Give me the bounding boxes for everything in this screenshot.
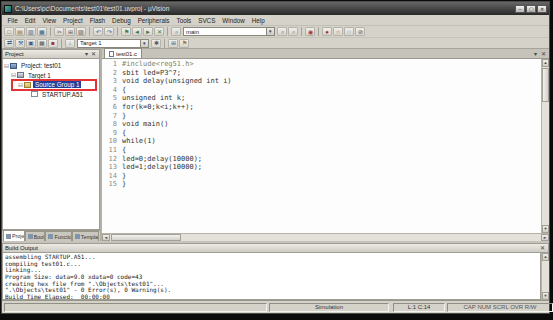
open-file-icon[interactable]: ▤ [15, 27, 25, 36]
scroll-up-icon[interactable]: ▲ [542, 253, 549, 261]
enable-breakpoint-icon[interactable]: ○ [333, 27, 343, 36]
close-tab-icon[interactable]: ✕ [540, 50, 547, 58]
tab-list-dropdown-icon[interactable]: ▾ [532, 50, 539, 58]
separator[interactable] [167, 27, 168, 36]
panel-tab-books[interactable]: Books [25, 231, 46, 241]
maximize-button[interactable]: ▢ [526, 5, 536, 13]
line-number: 10 [102, 137, 117, 146]
rebuild-icon[interactable]: ▣ [26, 39, 36, 48]
undo-icon[interactable]: ↶ [93, 27, 103, 36]
copy-icon[interactable]: ⊞ [65, 27, 75, 36]
separator[interactable] [89, 27, 90, 36]
find-icon[interactable]: ⌕ [277, 27, 287, 36]
menu-item[interactable]: Peripherals [134, 17, 173, 24]
build-icon[interactable]: ⚒ [15, 39, 25, 48]
scroll-left-icon[interactable]: ◄ [102, 234, 110, 241]
flag-icon[interactable]: ⚑ [179, 39, 189, 48]
scrollbar-track[interactable] [542, 261, 549, 292]
line-number: 13 [102, 163, 117, 172]
window-title: C:\Users\pc\Documents\test01\test01.uvpr… [15, 5, 512, 12]
expander-icon[interactable]: ⊟ [3, 63, 10, 69]
menu-item[interactable]: Window [219, 17, 248, 24]
project-tree-item[interactable]: ⊟ Target 1 [3, 71, 99, 81]
separator[interactable] [301, 27, 302, 36]
new-file-icon[interactable]: □ [4, 27, 14, 36]
project-tree-item[interactable]: ⊟ Source Group 1 [3, 80, 99, 90]
scrollbar-track[interactable] [182, 234, 541, 241]
panel-close-icon[interactable]: ✕ [539, 244, 546, 252]
minimize-button[interactable]: – [515, 5, 525, 13]
chevron-down-icon[interactable]: ▾ [266, 28, 274, 35]
code-text: } [117, 172, 126, 181]
find-in-files-icon[interactable]: ⌕ [171, 27, 181, 36]
title-bar[interactable]: C:\Users\pc\Documents\test01\test01.uvpr… [2, 2, 549, 15]
editor-vertical-scrollbar[interactable]: ▲ ▼ [541, 59, 549, 233]
batch-build-icon[interactable]: ▦ [37, 39, 47, 48]
separator[interactable] [318, 27, 319, 36]
panel-close-icon[interactable]: ✕ [90, 50, 97, 58]
manage-project-items-icon[interactable]: ⊞ [168, 39, 178, 48]
menu-item[interactable]: Edit [21, 17, 39, 24]
incremental-find-icon[interactable]: ⌕ [288, 27, 298, 36]
menu-item[interactable]: View [39, 17, 60, 24]
next-bookmark-icon[interactable]: ► [143, 27, 153, 36]
kill-breakpoints-icon[interactable]: ⊘ [355, 27, 365, 36]
download-icon[interactable]: ↓ [65, 39, 75, 48]
start-debug-icon[interactable]: ◉ [305, 27, 315, 36]
scrollbar-thumb[interactable] [111, 234, 181, 241]
save-all-icon[interactable]: ▦ [37, 27, 47, 36]
options-for-target-icon[interactable]: ✱ [151, 39, 161, 48]
chevron-down-icon[interactable]: ▾ [140, 40, 148, 47]
scrollbar-track[interactable] [542, 103, 549, 225]
panel-tab-templates[interactable]: Templates [72, 231, 99, 241]
close-button[interactable]: ✕ [537, 5, 547, 13]
prev-bookmark-icon[interactable]: ◄ [132, 27, 142, 36]
menu-item[interactable]: File [4, 17, 21, 24]
save-icon[interactable]: ▥ [26, 27, 36, 36]
clear-bookmarks-icon[interactable]: ✕ [154, 27, 164, 36]
scroll-right-icon[interactable]: ► [541, 234, 549, 241]
scrollbar-thumb[interactable] [542, 68, 549, 102]
find-combo-value: main [184, 29, 266, 35]
bookmark-icon[interactable]: ⚑ [121, 27, 131, 36]
insert-breakpoint-icon[interactable]: ● [322, 27, 332, 36]
build-output-body: assembling STARTUP.A51... compiling test… [2, 253, 549, 300]
expander-icon[interactable]: ⊟ [17, 82, 24, 88]
menu-item[interactable]: Debug [109, 17, 135, 24]
separator[interactable] [164, 39, 165, 48]
panel-tab-functions[interactable]: Functions [45, 231, 71, 241]
editor-horizontal-scrollbar[interactable]: ◄ ► [102, 233, 549, 241]
panel-menu-icon[interactable]: ▾ [83, 50, 90, 58]
stop-build-icon[interactable]: ■ [48, 39, 58, 48]
menu-item[interactable]: SVCS [195, 17, 219, 24]
panel-tab-project[interactable]: Project [3, 230, 25, 241]
menu-item[interactable]: Tools [173, 17, 195, 24]
tab-label: Templates [81, 234, 99, 240]
find-in-files-combo[interactable]: main ▾ [183, 27, 275, 36]
redo-icon[interactable]: ↷ [104, 27, 114, 36]
paste-icon[interactable]: ▨ [76, 27, 86, 36]
expander-icon[interactable]: ⊟ [10, 72, 17, 78]
code-line: 10 while(1) [102, 137, 541, 146]
menu-item[interactable]: Project [60, 17, 87, 24]
translate-icon[interactable]: ⇄ [4, 39, 14, 48]
separator[interactable] [50, 27, 51, 36]
tree-item-label: STARTUP.A51 [40, 91, 85, 98]
target-select-combo[interactable]: Target 1 ▾ [77, 39, 149, 48]
scroll-down-icon[interactable]: ▼ [542, 225, 549, 233]
menu-item[interactable]: Help [248, 17, 268, 24]
project-tree-item[interactable]: STARTUP.A51 [3, 90, 99, 100]
scroll-up-icon[interactable]: ▲ [542, 59, 549, 67]
scroll-down-icon[interactable]: ▼ [542, 292, 549, 300]
cut-icon[interactable]: ✂ [54, 27, 64, 36]
build-output-scrollbar[interactable]: ▲ ▼ [541, 253, 549, 300]
menu-item[interactable]: Flash [86, 17, 108, 24]
project-tree-item[interactable]: ⊟ Project: test01 [3, 61, 99, 71]
build-output-log[interactable]: assembling STARTUP.A51... compiling test… [2, 253, 541, 300]
editor-area: test01.c ▾ ✕ 1 #include<reg51.h> [102, 49, 549, 241]
code-editor[interactable]: 1 #include<reg51.h> 2 sbit led=P3^7; 3 [102, 59, 541, 233]
editor-tab-test01c[interactable]: test01.c [104, 48, 142, 58]
separator[interactable] [117, 27, 118, 36]
disable-breakpoints-icon[interactable]: ◌ [344, 27, 354, 36]
separator[interactable] [61, 39, 62, 48]
